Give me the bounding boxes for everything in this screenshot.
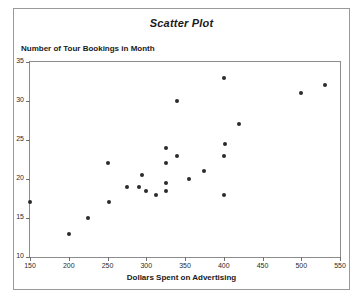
- y-axis-tick-label: 35: [16, 57, 24, 64]
- y-axis-tick-mark: [26, 140, 30, 141]
- scatter-point: [187, 177, 191, 181]
- x-axis-tick-mark: [69, 257, 70, 261]
- scatter-point: [140, 173, 144, 177]
- y-axis-tick-mark: [26, 218, 30, 219]
- x-axis-tick-mark: [146, 257, 147, 261]
- x-axis-tick-label: 550: [334, 262, 346, 269]
- scatter-point: [86, 216, 90, 220]
- x-axis-tick-label: 200: [63, 262, 75, 269]
- x-axis-tick-label: 250: [102, 262, 114, 269]
- scatter-point: [164, 161, 168, 165]
- scatter-point: [154, 193, 158, 197]
- scatter-point: [106, 161, 110, 165]
- plot-area: [30, 62, 340, 257]
- x-axis-tick-mark: [301, 257, 302, 261]
- chart-figure: Scatter Plot Number of Tour Bookings in …: [13, 8, 350, 290]
- scatter-point: [222, 193, 226, 197]
- y-axis-tick-label: 10: [16, 252, 24, 259]
- x-axis-tick-mark: [108, 257, 109, 261]
- scatter-point: [67, 232, 71, 236]
- scatter-point: [107, 200, 111, 204]
- x-axis-tick-mark: [30, 257, 31, 261]
- scatter-point: [223, 142, 227, 146]
- x-axis-tick-mark: [263, 257, 264, 261]
- scatter-point: [175, 99, 179, 103]
- x-axis-tick-label: 400: [218, 262, 230, 269]
- x-axis-title: Dollars Spent on Advertising: [14, 273, 349, 282]
- scatter-point: [299, 91, 303, 95]
- scatter-point: [237, 122, 241, 126]
- x-axis-tick-label: 350: [179, 262, 191, 269]
- scatter-point: [28, 200, 32, 204]
- scatter-point: [137, 185, 141, 189]
- chart-title: Scatter Plot: [14, 17, 349, 29]
- x-axis-tick-label: 300: [140, 262, 152, 269]
- y-axis-title: Number of Tour Bookings in Month: [21, 44, 155, 53]
- scatter-point: [222, 154, 226, 158]
- scatter-point: [164, 189, 168, 193]
- y-axis-tick-label: 15: [16, 213, 24, 220]
- x-axis-tick-label: 150: [24, 262, 36, 269]
- y-axis-tick-label: 20: [16, 174, 24, 181]
- y-axis-tick-label: 25: [16, 135, 24, 142]
- x-axis-tick-mark: [224, 257, 225, 261]
- x-axis-tick-label: 450: [257, 262, 269, 269]
- y-axis-tick-mark: [26, 179, 30, 180]
- scatter-point: [144, 189, 148, 193]
- y-axis-tick-label: 30: [16, 96, 24, 103]
- scatter-point: [164, 181, 168, 185]
- scatter-point: [202, 169, 206, 173]
- scatter-point: [323, 83, 327, 87]
- scatter-point: [125, 185, 129, 189]
- scatter-point: [175, 154, 179, 158]
- y-axis-tick-mark: [26, 101, 30, 102]
- scatter-point: [164, 146, 168, 150]
- scatter-point: [222, 76, 226, 80]
- x-axis-tick-label: 500: [295, 262, 307, 269]
- x-axis-tick-mark: [340, 257, 341, 261]
- plot-frame: 101520253035150200250300350400450500550: [29, 61, 341, 258]
- x-axis-tick-mark: [185, 257, 186, 261]
- y-axis-tick-mark: [26, 62, 30, 63]
